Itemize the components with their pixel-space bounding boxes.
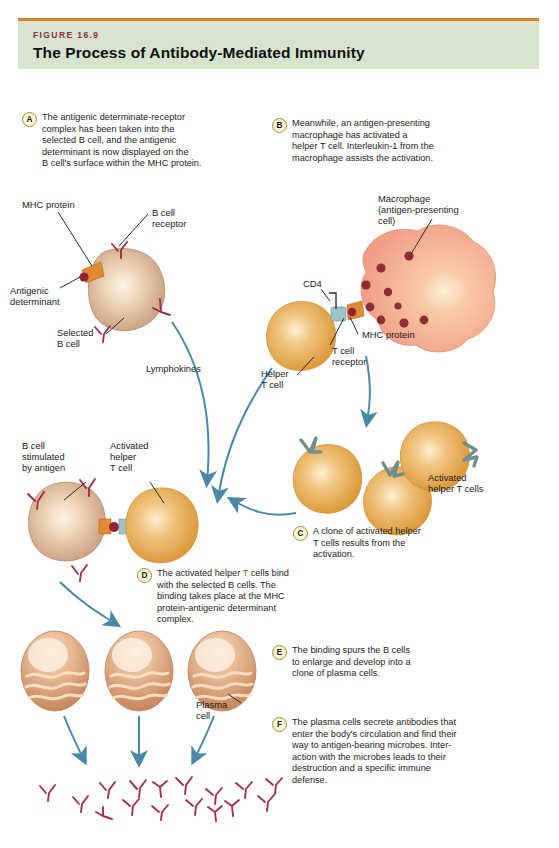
step-a: A The antigenic determinate-receptor com… bbox=[22, 112, 262, 170]
step-badge-c: C bbox=[293, 526, 308, 541]
macrophage-granules bbox=[361, 251, 428, 327]
step-e: E The binding spurs the B cells to enlar… bbox=[272, 645, 522, 680]
label-cd4: CD4 bbox=[303, 278, 322, 289]
label-selected-b-cell: Selected B cell bbox=[57, 327, 93, 349]
label-activated-helper-t-cell: Activated helper T cell bbox=[110, 440, 149, 473]
plasma-cell bbox=[105, 631, 173, 711]
antigenic-determinant-dot bbox=[79, 272, 88, 281]
figure-root: FIGURE 16.9 The Process of Antibody-Medi… bbox=[0, 0, 559, 848]
step-b: B Meanwhile, an antigen-presenting macro… bbox=[272, 118, 522, 164]
mhc-protein-tab-right bbox=[347, 301, 364, 320]
page-title: The Process of Antibody-Mediated Immunit… bbox=[33, 44, 365, 62]
step-badge-d: D bbox=[137, 568, 152, 583]
step-d-text: The activated helper T cells bind with t… bbox=[157, 568, 387, 626]
label-helper-t-cell: Helper T cell bbox=[261, 368, 289, 390]
step-badge-f: F bbox=[272, 717, 287, 732]
step-b-text: Meanwhile, an antigen-presenting macroph… bbox=[292, 118, 522, 164]
label-antigenic-determinant: Antigenic determinant bbox=[10, 285, 60, 307]
stimulated-b-cell-receptors bbox=[28, 479, 95, 581]
step-e-text: The binding spurs the B cells to enlarge… bbox=[292, 645, 522, 680]
label-mhc-protein-right: MHC protein bbox=[362, 329, 415, 340]
step-d: D The activated helper T cells bind with… bbox=[137, 568, 387, 626]
figure-number: FIGURE 16.9 bbox=[33, 30, 99, 40]
label-b-cell-receptor: B cell receptor bbox=[152, 207, 186, 229]
label-plasma-cell: Plasma cell bbox=[196, 699, 227, 721]
step-a-text: The antigenic determinate-receptor compl… bbox=[42, 112, 262, 170]
label-activated-helper-t-cells: Activated helper T cells bbox=[428, 472, 483, 494]
step-f-text: The plasma cells secrete antibodies that… bbox=[292, 717, 542, 787]
cd4-receptor bbox=[331, 307, 346, 321]
antibodies-group bbox=[40, 777, 282, 821]
label-mhc-protein-top: MHC protein bbox=[22, 199, 75, 210]
mhc-protein-tab bbox=[82, 262, 104, 283]
step-f: F The plasma cells secrete antibodies th… bbox=[272, 717, 542, 787]
plasma-cell bbox=[21, 631, 89, 711]
step-c: C A clone of activated helper T cells re… bbox=[293, 526, 523, 561]
step-badge-b: B bbox=[272, 118, 287, 133]
step-c-text: A clone of activated helper T cells resu… bbox=[313, 526, 523, 561]
b-cell-receptors bbox=[95, 242, 170, 342]
step-d-part1: The activated helper bbox=[157, 568, 243, 578]
label-macrophage: Macrophage (antigen-presenting cell) bbox=[378, 193, 459, 226]
label-lymphokines: Lymphokines bbox=[146, 363, 201, 374]
antigen-dot-right bbox=[348, 308, 356, 316]
step-badge-a: A bbox=[22, 112, 37, 127]
label-t-cell-receptor: T cell receptor bbox=[332, 345, 366, 367]
label-b-cell-stimulated: B cell stimulated by antigen bbox=[22, 440, 65, 473]
bound-b-and-t-cell-group bbox=[28, 479, 198, 581]
step-badge-e: E bbox=[272, 645, 287, 660]
